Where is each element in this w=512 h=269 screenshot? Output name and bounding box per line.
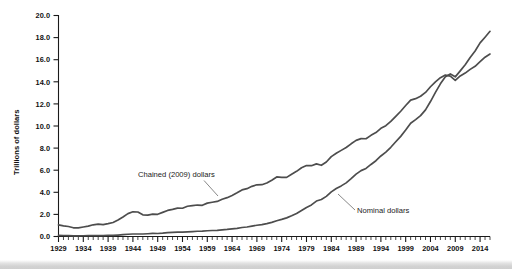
y-tick-label: 0.0 <box>40 232 50 241</box>
y-tick-label: 6.0 <box>40 166 50 175</box>
x-tick-label: 1934 <box>75 244 92 253</box>
gdp-line-chart: Trillions of dollars 0.0 2.0 4.0 6.0 8.0… <box>0 0 512 269</box>
chart-figure: Trillions of dollars 0.0 2.0 4.0 6.0 8.0… <box>0 0 512 269</box>
y-tick-label: 20.0 <box>36 11 50 20</box>
y-tick-label: 18.0 <box>36 33 50 42</box>
x-tick-label: 2004 <box>422 244 439 253</box>
x-tick-label: 1999 <box>397 244 413 253</box>
x-tick-label: 1969 <box>249 244 265 253</box>
x-tick-label: 1984 <box>323 244 340 253</box>
x-tick-label: 1994 <box>373 244 390 253</box>
y-tick-label: 12.0 <box>36 100 50 109</box>
y-tick-label: 16.0 <box>36 55 50 64</box>
x-tick-label: 1954 <box>174 244 191 253</box>
y-tick-label: 10.0 <box>36 122 50 131</box>
x-tick-label: 1959 <box>199 244 215 253</box>
y-axis-title: Trillions of dollars <box>12 110 21 175</box>
x-tick-label: 1979 <box>298 244 314 253</box>
x-tick-label: 1939 <box>100 244 116 253</box>
x-tick-label: 1964 <box>224 244 241 253</box>
y-tick-label: 8.0 <box>40 144 50 153</box>
x-tick-label: 1989 <box>348 244 364 253</box>
annotation-nominal-label: Nominal dollars <box>357 206 410 215</box>
x-tick-label: 2014 <box>472 244 489 253</box>
x-tick-label: 1949 <box>149 244 165 253</box>
y-tick-label: 4.0 <box>40 188 50 197</box>
y-tick-label: 14.0 <box>36 78 50 87</box>
annotation-chained-label: Chained (2009) dollars <box>138 170 215 179</box>
x-tick-label: 1944 <box>125 244 142 253</box>
footer-band <box>0 260 512 269</box>
x-tick-label: 1974 <box>273 244 290 253</box>
x-tick-label: 2009 <box>447 244 463 253</box>
x-tick-label: 1929 <box>50 244 66 253</box>
y-tick-label: 2.0 <box>40 210 50 219</box>
